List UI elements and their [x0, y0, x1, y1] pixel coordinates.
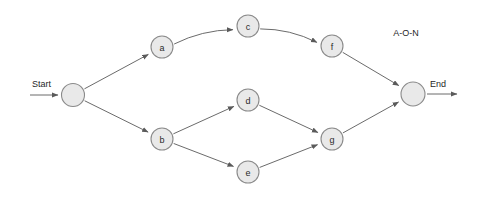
node-circle-g[interactable]: [321, 128, 343, 150]
node-circle-end[interactable]: [401, 82, 425, 106]
node-circle-d[interactable]: [237, 89, 259, 111]
diagram-canvas: abcdefg StartEndA-O-N: [0, 0, 477, 198]
node-circle-start[interactable]: [62, 84, 85, 107]
node-b[interactable]: b: [151, 128, 173, 150]
node-circle-e[interactable]: [237, 161, 259, 183]
node-d[interactable]: d: [237, 89, 259, 111]
node-circle-c[interactable]: [237, 15, 259, 37]
node-end[interactable]: [401, 82, 425, 106]
node-f[interactable]: f: [321, 35, 343, 57]
caption-text: A-O-N: [393, 28, 419, 38]
start-text: Start: [32, 79, 52, 89]
aon-network-diagram: abcdefg StartEndA-O-N: [0, 0, 477, 198]
node-circle-a[interactable]: [151, 36, 173, 58]
end-text: End: [430, 79, 446, 89]
node-c[interactable]: c: [237, 15, 259, 37]
node-a[interactable]: a: [151, 36, 173, 58]
node-g[interactable]: g: [321, 128, 343, 150]
node-start[interactable]: [62, 84, 85, 107]
node-e[interactable]: e: [237, 161, 259, 183]
node-circle-f[interactable]: [321, 35, 343, 57]
node-circle-b[interactable]: [151, 128, 173, 150]
